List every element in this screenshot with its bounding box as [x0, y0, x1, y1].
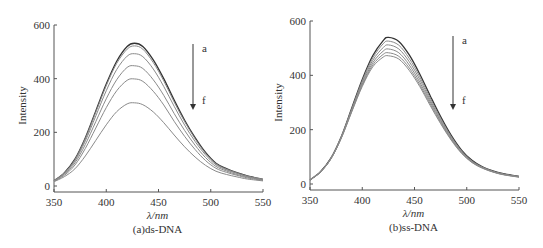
spectrum-curve-d: [54, 66, 263, 182]
y-axis-label: Intensity: [272, 83, 284, 122]
spectrum-curve-e: [54, 79, 263, 182]
panel-label: (a)ds-DNA: [133, 223, 183, 236]
x-tick-label: 500: [459, 194, 476, 206]
spectra-curves: [54, 43, 263, 181]
panel-label: (b)ss-DNA: [389, 221, 438, 234]
axes: 0200400600350400450500550: [290, 15, 528, 206]
y-tick-label: 400: [290, 69, 307, 81]
spectrum-curve-f: [54, 103, 263, 182]
y-tick-label: 0: [45, 180, 51, 192]
arrow-down-icon: [190, 104, 196, 110]
x-axis-label: λ/nm: [146, 209, 168, 221]
x-tick-label: 350: [46, 196, 63, 208]
series-end-label: f: [462, 94, 466, 106]
x-tick-label: 450: [150, 196, 167, 208]
spectrum-curve-b: [310, 41, 519, 180]
y-tick-label: 600: [290, 15, 307, 27]
x-tick-label: 550: [511, 194, 528, 206]
axes: 0200400600350400450500550: [34, 19, 272, 208]
series-start-label: a: [202, 42, 207, 54]
x-tick-label: 450: [406, 194, 423, 206]
spectrum-curve-d: [310, 49, 519, 180]
x-axis-label: λ/nm: [402, 207, 424, 219]
chart-panel-ss-dna: 0200400600350400450500550 af Intensity λ…: [272, 15, 528, 234]
spectrum-curve-f: [310, 56, 519, 180]
x-tick-label: 350: [302, 194, 319, 206]
spectrum-curve-e: [310, 53, 519, 180]
y-tick-label: 200: [34, 126, 51, 138]
arrow-down-icon: [450, 104, 456, 110]
x-tick-label: 400: [354, 194, 371, 206]
spectra-curves: [310, 37, 519, 180]
chart-panel-ds-dna: 0200400600350400450500550 af Intensity λ…: [16, 19, 272, 236]
series-end-label: f: [202, 94, 206, 106]
spectrum-curve-a: [310, 37, 519, 180]
x-tick-label: 400: [98, 196, 115, 208]
spectrum-curve-b: [54, 46, 263, 181]
x-tick-label: 550: [255, 196, 272, 208]
x-tick-label: 500: [203, 196, 220, 208]
y-tick-label: 600: [34, 19, 51, 31]
y-axis-label: Intensity: [16, 86, 28, 125]
arrow-annotation: af: [450, 34, 467, 110]
figure: 0200400600350400450500550 af Intensity λ…: [0, 0, 543, 248]
y-tick-label: 400: [34, 73, 51, 85]
spectrum-curve-a: [54, 43, 263, 180]
y-tick-label: 0: [301, 178, 307, 190]
series-start-label: a: [462, 34, 467, 46]
y-tick-label: 200: [290, 124, 307, 136]
arrow-annotation: af: [190, 42, 207, 110]
